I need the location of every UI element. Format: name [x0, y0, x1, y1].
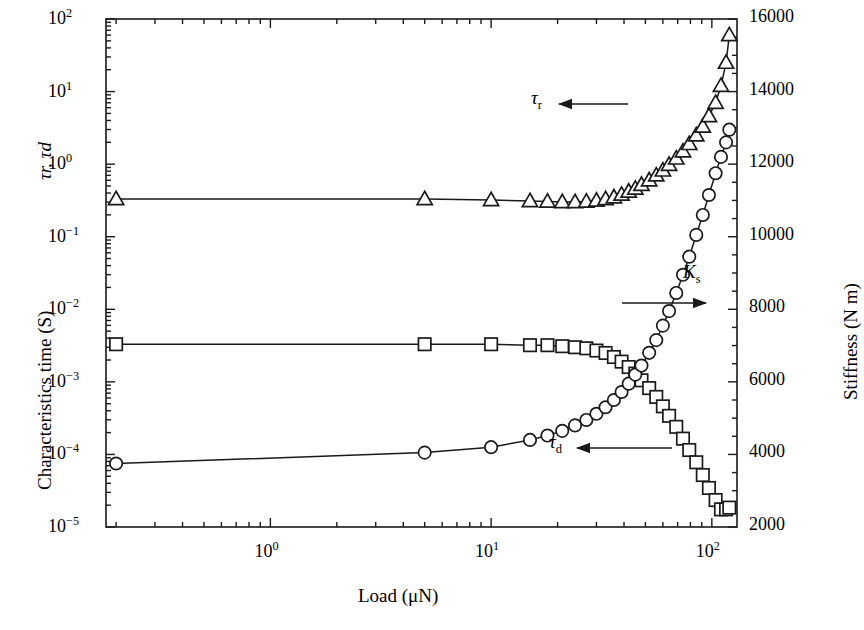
annotation-label-Ks: Ks	[683, 261, 701, 287]
y2-tick-label: 10000	[749, 224, 794, 245]
y2-tick-label: 16000	[749, 6, 794, 27]
y2-tick-label: 12000	[749, 151, 794, 172]
x-tick-label: 102	[696, 539, 720, 562]
chart-plot-area	[0, 0, 864, 630]
y-tick-label: 10−5	[48, 514, 79, 537]
x-tick-label: 100	[254, 539, 278, 562]
y-tick-label: 10−3	[48, 369, 79, 392]
y2-tick-label: 8000	[749, 296, 785, 317]
annotation-label-τr: τr	[531, 87, 542, 113]
x-tick-label: 101	[475, 539, 499, 562]
series-circle	[110, 123, 736, 469]
y2-tick-label: 14000	[749, 79, 794, 100]
figure-container: τr, τd Characteristics time (S) Stiffnes…	[0, 0, 864, 630]
y2-tick-label: 2000	[749, 514, 785, 535]
y-tick-label: 10−2	[48, 296, 79, 319]
y-tick-label: 100	[48, 151, 72, 174]
annotation-label-τd: τd	[549, 431, 562, 457]
y-tick-label: 10−1	[48, 224, 79, 247]
data-series-group	[109, 27, 737, 515]
annotation-arrow-2	[576, 443, 672, 453]
y2-tick-label: 4000	[749, 441, 785, 462]
y2-tick-label: 6000	[749, 369, 785, 390]
y-tick-label: 102	[48, 6, 72, 29]
y-tick-label: 10−4	[48, 441, 79, 464]
annotation-arrow-0	[558, 99, 628, 109]
y-tick-label: 101	[48, 79, 72, 102]
series-triangle	[109, 27, 737, 207]
